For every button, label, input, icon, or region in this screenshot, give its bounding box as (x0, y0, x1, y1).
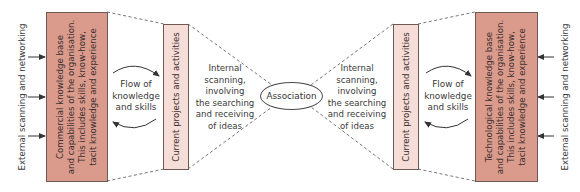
dashed-line-left-bottom-outer (107, 169, 164, 181)
right-knowledge-base-box: Technological knowledge base and capabil… (475, 12, 538, 182)
dashed-line-left-top-outer (107, 12, 164, 24)
right-external-scanning-label: External scanning and networking (547, 12, 580, 181)
curved-arrow-icon (113, 66, 159, 76)
left-flow-label: Flow of knowledge and skills (106, 79, 166, 114)
curved-arrow-icon (425, 119, 468, 128)
right-flow-label: Flow of knowledge and skills (418, 79, 478, 114)
right-projects-box: Current projects and activities (393, 24, 419, 170)
curved-arrow-icon (426, 66, 471, 76)
association-node: Association (260, 82, 323, 110)
dashed-line-right-bottom-outer (418, 169, 475, 181)
curved-arrow-icon (113, 119, 156, 128)
left-knowledge-base-box: Commercial knowledge base and capabiliti… (46, 12, 108, 182)
right-internal-scanning-label: Internal scanning, involving the searchi… (321, 63, 393, 133)
left-external-scanning-label: External scanning and networking (4, 12, 40, 181)
left-internal-scanning-label: Internal scanning, involving the searchi… (190, 63, 260, 133)
left-projects-box: Current projects and activities (163, 24, 189, 170)
dashed-line-right-top-outer (418, 12, 475, 24)
association-label: Association (266, 91, 316, 101)
